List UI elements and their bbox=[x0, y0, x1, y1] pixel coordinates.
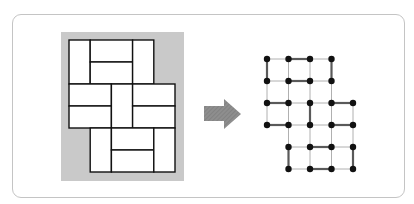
graph-node bbox=[307, 100, 313, 106]
graph-node bbox=[264, 122, 270, 128]
graph-node bbox=[350, 122, 356, 128]
graph-node bbox=[328, 56, 334, 62]
graph-node bbox=[350, 144, 356, 150]
graph-node bbox=[328, 122, 334, 128]
graph-node bbox=[328, 78, 334, 84]
graph-node bbox=[285, 144, 291, 150]
graph-node bbox=[307, 78, 313, 84]
graph-node bbox=[285, 78, 291, 84]
graph-node bbox=[285, 100, 291, 106]
graph-node bbox=[264, 100, 270, 106]
graph-node bbox=[264, 78, 270, 84]
matching-graph bbox=[0, 0, 414, 204]
graph-node bbox=[307, 166, 313, 172]
graph-node bbox=[328, 166, 334, 172]
graph-node bbox=[307, 144, 313, 150]
graph-node bbox=[328, 144, 334, 150]
graph-node bbox=[285, 166, 291, 172]
graph-node bbox=[307, 56, 313, 62]
graph-node bbox=[264, 56, 270, 62]
graph-node bbox=[285, 56, 291, 62]
graph-node bbox=[285, 122, 291, 128]
graph-node bbox=[350, 100, 356, 106]
graph-node bbox=[307, 122, 313, 128]
graph-node bbox=[350, 166, 356, 172]
graph-node bbox=[328, 100, 334, 106]
